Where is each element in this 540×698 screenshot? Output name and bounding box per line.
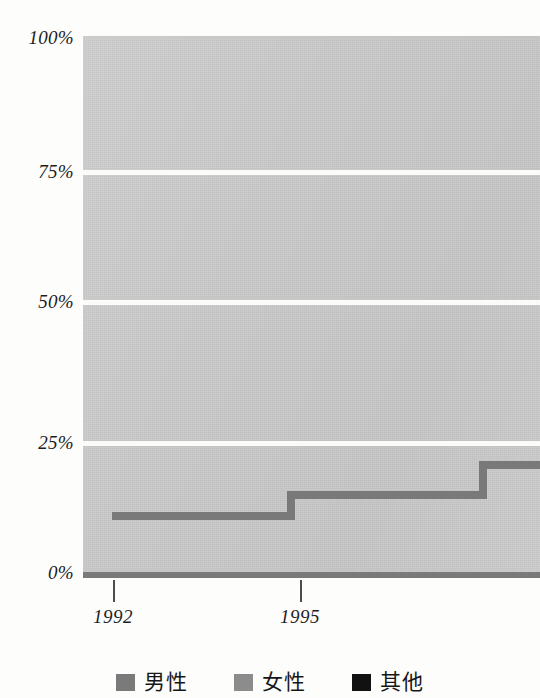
legend-item-female[interactable]: 女性 (234, 672, 306, 693)
plot-area (83, 36, 540, 578)
legend-label-female: 女性 (262, 672, 306, 693)
series-male-step-line (83, 36, 540, 578)
x-axis-label-1992: 1992 (93, 606, 133, 628)
x-axis-label-1995: 1995 (280, 606, 320, 628)
legend-swatch-icon (234, 674, 253, 691)
chart-legend: 男性 女性 其他 (0, 672, 540, 693)
y-axis-label-50: 50% (0, 291, 74, 313)
step-segment-2 (287, 491, 487, 499)
y-axis-label-25: 25% (0, 432, 74, 454)
legend-swatch-icon (116, 674, 135, 691)
step-segment-3 (479, 461, 540, 469)
legend-item-male[interactable]: 男性 (116, 672, 188, 693)
y-axis-label-75: 75% (0, 161, 74, 183)
y-axis-label-0: 0% (0, 562, 74, 584)
step-chart: 100% 75% 50% 25% 0% 1992 1995 男性 女性 其他 (0, 0, 540, 698)
y-axis-label-100: 100% (0, 27, 74, 49)
step-segment-1 (112, 512, 295, 520)
legend-item-other[interactable]: 其他 (352, 672, 424, 693)
axis-baseline-zero (83, 572, 540, 578)
x-axis-tick-1992 (113, 580, 115, 602)
legend-label-male: 男性 (144, 672, 188, 693)
legend-label-other: 其他 (380, 672, 424, 693)
legend-swatch-icon (352, 674, 371, 691)
x-axis-tick-1995 (300, 580, 302, 602)
